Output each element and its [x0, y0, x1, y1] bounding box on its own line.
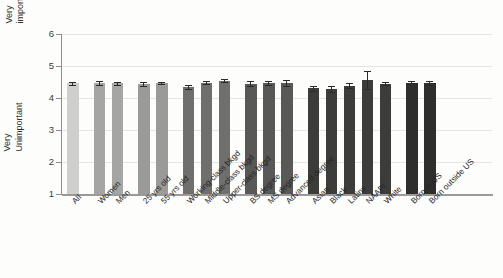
- y-axis-top-label-line1: Very: [5, 0, 14, 23]
- error-bar-cap-lower: [346, 88, 353, 89]
- error-bar-cap-upper: [310, 86, 317, 87]
- error-bar-cap-upper: [328, 86, 335, 87]
- bar-group[interactable]: [67, 34, 79, 194]
- y-axis-tick-mark: [56, 194, 61, 195]
- bar-group[interactable]: [281, 34, 293, 194]
- bar-group[interactable]: [424, 34, 436, 194]
- error-bar-cap-lower: [96, 85, 103, 86]
- y-axis-tick-mark: [56, 98, 61, 99]
- bar[interactable]: [112, 83, 124, 194]
- error-bar-cap-upper: [203, 81, 210, 82]
- error-bar-cap-upper: [408, 81, 415, 82]
- error-bar-cap-upper: [283, 80, 290, 81]
- bar-group[interactable]: [380, 34, 392, 194]
- bar[interactable]: [344, 86, 356, 194]
- error-bar-cap-lower: [328, 92, 335, 93]
- bar[interactable]: [94, 83, 106, 194]
- bar[interactable]: [406, 83, 418, 194]
- bar[interactable]: [326, 89, 338, 194]
- error-bar-cap-upper: [382, 82, 389, 83]
- error-bar-cap-upper: [185, 85, 192, 86]
- y-axis-tick-label: 5: [32, 61, 54, 71]
- bar-group[interactable]: [362, 34, 374, 194]
- error-bar-cap-lower: [158, 84, 165, 85]
- error-bar-cap-lower: [364, 89, 371, 90]
- y-axis-top-label-line2-wrap: important: [16, 0, 25, 23]
- error-bar-cap-lower: [265, 85, 272, 86]
- error-bar-cap-upper: [265, 81, 272, 82]
- error-bar-cap-lower: [114, 85, 121, 86]
- error-bar-cap-lower: [203, 84, 210, 85]
- error-bar-cap-upper: [247, 81, 254, 82]
- y-axis-tick-label: 4: [32, 93, 54, 103]
- bar-group[interactable]: [201, 34, 213, 194]
- error-bar-cap-lower: [185, 89, 192, 90]
- error-bar-cap-upper: [221, 79, 228, 80]
- y-axis-tick-mark: [56, 66, 61, 67]
- y-axis-tick-mark: [56, 130, 61, 131]
- bar[interactable]: [362, 80, 374, 194]
- y-axis-top-label: Very: [5, 0, 14, 23]
- y-axis-bottom-label-line1: Very: [3, 95, 12, 151]
- bar-group[interactable]: [183, 34, 195, 194]
- error-bar-cap-lower: [382, 85, 389, 86]
- bar-group[interactable]: [112, 34, 124, 194]
- bar-group[interactable]: [326, 34, 338, 194]
- y-axis-tick-mark: [56, 34, 61, 35]
- bar[interactable]: [138, 84, 150, 194]
- bar-group[interactable]: [156, 34, 168, 194]
- y-axis-tick-label: 1: [32, 189, 54, 199]
- error-bar-line: [367, 71, 368, 88]
- y-axis-ticks: 123456: [26, 0, 54, 278]
- bar-group[interactable]: [344, 34, 356, 194]
- y-axis-bottom-label-line2-wrap: Unimportant: [15, 95, 24, 151]
- bar-group[interactable]: [138, 34, 150, 194]
- error-bar-cap-lower: [283, 86, 290, 87]
- y-axis-tick-label: 2: [32, 157, 54, 167]
- error-bar-cap-upper: [69, 82, 76, 83]
- error-bar-cap-lower: [140, 86, 147, 87]
- error-bar-cap-upper: [426, 81, 433, 82]
- error-bar-cap-lower: [69, 85, 76, 86]
- bar-chart: Very important Very Unimportant 123456 A…: [0, 0, 503, 278]
- bar[interactable]: [380, 84, 392, 194]
- error-bar-cap-upper: [96, 81, 103, 82]
- plot-area: [62, 34, 492, 194]
- error-bar-cap-lower: [310, 91, 317, 92]
- y-axis-tick-label: 6: [32, 29, 54, 39]
- bar-group[interactable]: [94, 34, 106, 194]
- y-axis-tick-mark: [56, 162, 61, 163]
- bar-group[interactable]: [406, 34, 418, 194]
- bar-group[interactable]: [263, 34, 275, 194]
- error-bar-cap-lower: [247, 86, 254, 87]
- error-bar-cap-upper: [346, 83, 353, 84]
- y-axis-bottom-label-line2: Unimportant: [15, 95, 24, 151]
- error-bar-cap-upper: [114, 82, 121, 83]
- error-bar-cap-upper: [140, 82, 147, 83]
- error-bar-cap-lower: [408, 84, 415, 85]
- y-axis-tick-label: 3: [32, 125, 54, 135]
- error-bar-cap-lower: [426, 85, 433, 86]
- error-bar-cap-upper: [364, 71, 371, 72]
- error-bar-cap-lower: [221, 82, 228, 83]
- bar[interactable]: [67, 83, 79, 194]
- y-axis-bottom-label: Very: [3, 95, 12, 151]
- error-bar-cap-upper: [158, 82, 165, 83]
- y-axis-top-label-line2: important: [16, 0, 25, 23]
